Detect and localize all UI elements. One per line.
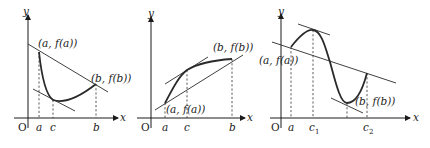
y-axis-label: y: [147, 7, 155, 19]
y-axis-label: y: [277, 5, 285, 17]
panel-3: y x O a c 1 c 2 (a, f(a)) (b, f(b)): [259, 5, 419, 136]
origin-label: O: [18, 121, 27, 133]
function-curve: [165, 59, 232, 103]
panel-2: y x O a c b (a, f(a)) (b, f(b)): [137, 7, 253, 133]
point-label-end: (b, f(b)): [355, 95, 395, 107]
point-label-start: (a, f(a)): [259, 54, 298, 66]
x-axis-label: x: [413, 111, 419, 123]
point-label-end: (b, f(b)): [213, 41, 253, 53]
tick-c2-subscript: 2: [369, 128, 373, 136]
tick-c: c: [184, 121, 190, 133]
tick-b: b: [93, 121, 100, 133]
x-axis-label: x: [247, 111, 253, 123]
origin-label: O: [141, 121, 150, 133]
point-label-start: (a, f(a)): [38, 37, 77, 49]
tick-c1-subscript: 1: [315, 128, 319, 136]
function-curve: [291, 30, 367, 103]
y-axis-label: y: [22, 5, 30, 17]
function-curve: [39, 52, 96, 101]
origin-label: O: [271, 121, 280, 133]
tick-b: b: [229, 121, 236, 133]
point-label-start: (a, f(a)): [166, 103, 205, 115]
tick-c: c: [50, 121, 56, 133]
point-label-end: (b, f(b)): [91, 72, 131, 84]
tick-a: a: [288, 121, 294, 133]
panel-1: y x O a c b (a, f(a)) (b, f(b)): [14, 5, 131, 133]
tick-a: a: [162, 121, 168, 133]
x-axis-label: x: [120, 111, 126, 123]
mean-value-theorem-diagram: y x O a c b (a, f(a)) (b, f(b)) y x O a …: [0, 0, 430, 148]
tick-a: a: [36, 121, 42, 133]
